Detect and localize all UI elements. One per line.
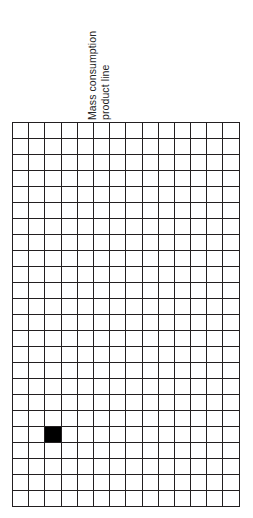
grid-cell[interactable] [77,155,93,171]
grid-cell[interactable] [142,123,158,139]
grid-cell[interactable] [158,187,174,203]
grid-cell[interactable] [13,155,29,171]
grid-cell[interactable] [174,267,190,283]
grid-cell[interactable] [191,267,207,283]
grid-cell[interactable] [45,171,61,187]
grid-cell[interactable] [158,379,174,395]
grid-cell[interactable] [45,475,61,491]
grid-cell[interactable] [13,379,29,395]
grid-cell[interactable] [29,267,45,283]
grid-cell[interactable] [191,171,207,187]
grid-cell[interactable] [158,443,174,459]
grid-cell[interactable] [45,203,61,219]
grid-cell[interactable] [29,251,45,267]
grid-cell[interactable] [93,219,109,235]
grid-cell[interactable] [126,251,142,267]
grid-cell[interactable] [223,235,239,251]
grid-cell[interactable] [110,203,126,219]
grid-cell[interactable] [174,475,190,491]
grid-cell[interactable] [110,187,126,203]
grid-cell[interactable] [174,315,190,331]
grid-cell[interactable] [110,171,126,187]
grid-cell[interactable] [191,411,207,427]
grid-cell[interactable] [13,427,29,443]
grid-cell[interactable] [13,235,29,251]
grid-cell[interactable] [13,251,29,267]
grid-cell[interactable] [174,235,190,251]
grid-cell[interactable] [61,203,77,219]
grid-cell[interactable] [174,331,190,347]
grid-cell[interactable] [158,459,174,475]
grid-cell[interactable] [45,331,61,347]
grid-cell[interactable] [207,347,223,363]
grid-cell[interactable] [93,251,109,267]
grid-cell[interactable] [61,155,77,171]
grid-cell[interactable] [110,251,126,267]
grid-cell[interactable] [223,171,239,187]
grid-cell[interactable] [207,411,223,427]
grid-cell[interactable] [13,187,29,203]
grid-cell[interactable] [223,379,239,395]
grid-cell[interactable] [77,443,93,459]
grid-cell[interactable] [142,379,158,395]
grid-cell[interactable] [93,347,109,363]
grid-cell[interactable] [126,203,142,219]
grid-cell[interactable] [158,475,174,491]
grid-cell[interactable] [142,299,158,315]
grid-cell[interactable] [126,299,142,315]
grid-cell[interactable] [77,347,93,363]
grid-cell[interactable] [142,187,158,203]
grid-cell[interactable] [207,427,223,443]
grid-cell[interactable] [191,235,207,251]
grid-cell[interactable] [207,363,223,379]
grid-cell[interactable] [126,171,142,187]
grid-cell[interactable] [126,219,142,235]
grid-cell[interactable] [93,379,109,395]
grid-cell[interactable] [223,411,239,427]
grid-cell[interactable] [61,283,77,299]
grid-cell[interactable] [93,283,109,299]
grid-cell[interactable] [207,267,223,283]
grid-cell[interactable] [45,187,61,203]
grid-cell[interactable] [142,283,158,299]
grid-cell[interactable] [77,331,93,347]
grid-cell[interactable] [207,251,223,267]
grid-cell[interactable] [13,475,29,491]
grid-cell[interactable] [174,203,190,219]
grid-cell[interactable] [45,299,61,315]
grid-cell[interactable] [13,123,29,139]
grid-cell[interactable] [61,123,77,139]
grid-cell[interactable] [29,475,45,491]
grid-cell[interactable] [223,267,239,283]
grid-cell[interactable] [191,139,207,155]
grid-cell[interactable] [223,251,239,267]
grid-cell[interactable] [93,187,109,203]
grid-cell[interactable] [142,219,158,235]
grid-cell[interactable] [77,187,93,203]
grid-cell[interactable] [61,459,77,475]
grid-cell[interactable] [223,363,239,379]
grid-cell[interactable] [29,187,45,203]
grid-cell[interactable] [158,411,174,427]
grid-cell[interactable] [29,283,45,299]
grid-cell[interactable] [77,123,93,139]
grid-cell[interactable] [158,123,174,139]
grid-cell[interactable] [126,267,142,283]
grid-cell[interactable] [61,363,77,379]
grid-cell[interactable] [77,315,93,331]
grid-cell[interactable] [158,251,174,267]
grid-cell[interactable] [158,171,174,187]
grid-cell[interactable] [158,155,174,171]
grid-cell[interactable] [126,283,142,299]
grid-cell[interactable] [207,187,223,203]
grid-cell-filled[interactable] [45,427,61,443]
grid-cell[interactable] [45,235,61,251]
grid-cell[interactable] [61,171,77,187]
grid-cell[interactable] [126,123,142,139]
grid-cell[interactable] [174,395,190,411]
grid-cell[interactable] [77,283,93,299]
grid-cell[interactable] [223,427,239,443]
grid-cell[interactable] [93,299,109,315]
grid-cell[interactable] [110,331,126,347]
grid-cell[interactable] [126,331,142,347]
